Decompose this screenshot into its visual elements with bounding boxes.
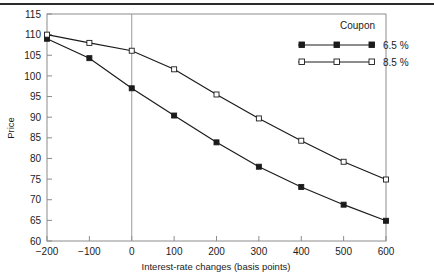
x-tick-label: 300 (251, 246, 268, 257)
data-point-marker[interactable] (129, 48, 134, 53)
data-point-marker[interactable] (341, 159, 346, 164)
data-point-marker[interactable] (214, 140, 219, 145)
data-point-marker[interactable] (384, 177, 389, 182)
data-point-marker[interactable] (129, 86, 134, 91)
chart-figure: 6065707580859095100105110115 −200−100010… (0, 0, 434, 276)
x-tick-label: 500 (335, 246, 352, 257)
data-point-marker[interactable] (299, 184, 304, 189)
legend-marker-filled-square-b (334, 42, 340, 48)
data-point-marker[interactable] (341, 202, 346, 207)
y-tick-label: 110 (25, 29, 41, 40)
price-vs-rate-line-chart: 6065707580859095100105110115 −200−100010… (0, 0, 434, 276)
data-point-marker[interactable] (45, 32, 50, 37)
plot-area-frame (47, 14, 386, 241)
x-tick-label: 400 (293, 246, 310, 257)
y-tick-label: 65 (30, 215, 42, 226)
y-tick-label: 105 (24, 50, 41, 61)
x-tick-label: −200 (36, 246, 59, 257)
x-tick-label: 0 (129, 246, 135, 257)
x-tick-label: 200 (208, 246, 225, 257)
y-tick-label: 90 (30, 112, 42, 123)
y-tick-label: 70 (30, 194, 42, 205)
y-tick-label: 85 (30, 132, 42, 143)
y-tick-label: 60 (30, 236, 42, 247)
data-point-marker[interactable] (172, 113, 177, 118)
legend-label-6.5: 6.5 % (383, 40, 409, 51)
legend-marker-open-square-c (369, 59, 375, 65)
data-point-marker[interactable] (299, 138, 304, 143)
legend-title: Coupon (340, 20, 375, 31)
data-point-marker[interactable] (256, 164, 261, 169)
legend-marker-open-square-a (299, 59, 305, 65)
x-tick-label: −100 (78, 246, 101, 257)
data-point-marker[interactable] (384, 218, 389, 223)
x-axis-title: Interest-rate changes (basis points) (142, 261, 291, 272)
x-tick-label: 100 (166, 246, 183, 257)
legend-marker-filled-square-c (369, 42, 375, 48)
data-point-marker[interactable] (256, 116, 261, 121)
legend-marker-open-square-b (334, 59, 340, 65)
y-tick-label: 100 (24, 71, 41, 82)
legend-label-8.5: 8.5 % (383, 57, 409, 68)
data-point-marker[interactable] (87, 40, 92, 45)
data-point-marker[interactable] (214, 92, 219, 97)
y-tick-label: 75 (30, 174, 42, 185)
data-point-marker[interactable] (87, 56, 92, 61)
y-tick-label: 95 (30, 91, 42, 102)
legend-marker-filled-square-a (299, 42, 305, 48)
data-point-marker[interactable] (172, 67, 177, 72)
y-axis-title: Price (5, 117, 16, 139)
y-tick-label: 115 (25, 9, 41, 20)
x-tick-label: 600 (378, 246, 395, 257)
y-tick-label: 80 (30, 153, 42, 164)
